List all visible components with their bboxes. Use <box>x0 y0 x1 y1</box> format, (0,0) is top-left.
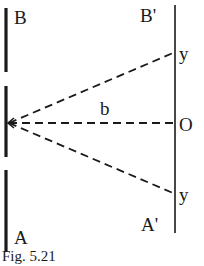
label-B-prime: B' <box>140 6 156 25</box>
label-b: b <box>100 99 110 118</box>
label-y-bottom: y <box>179 185 189 204</box>
ray-to-lower-y <box>9 123 173 193</box>
rays <box>9 53 173 193</box>
label-O: O <box>179 115 193 134</box>
label-y-top: y <box>179 44 189 63</box>
label-A-prime: A' <box>141 215 158 234</box>
label-A: A <box>14 228 28 247</box>
ray-to-upper-y <box>9 53 173 123</box>
label-B: B <box>14 8 27 27</box>
figure-caption: Fig. 5.21 <box>2 249 56 264</box>
